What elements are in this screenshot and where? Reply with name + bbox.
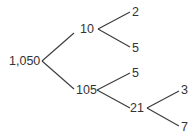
factor-tree-diagram: 1,050 10 2 5 105 5 21 3 7 — [0, 0, 194, 138]
branch-1050-10 — [42, 33, 74, 61]
node-10: 10 — [80, 22, 94, 36]
node-2: 2 — [132, 5, 139, 19]
node-3: 3 — [181, 83, 188, 97]
branch-105-21 — [97, 90, 130, 108]
branch-21-7 — [147, 108, 179, 126]
branch-10-2 — [98, 12, 130, 29]
branch-21-3 — [147, 91, 179, 108]
branch-10-5 — [98, 29, 130, 47]
node-5-a: 5 — [132, 41, 139, 55]
node-105: 105 — [76, 83, 97, 97]
node-5-b: 5 — [132, 66, 139, 80]
node-7: 7 — [181, 120, 188, 134]
node-21: 21 — [130, 101, 144, 115]
branch-1050-105 — [42, 61, 74, 89]
node-root: 1,050 — [9, 54, 40, 68]
branch-105-5 — [97, 73, 130, 90]
tree-branches — [0, 0, 194, 138]
